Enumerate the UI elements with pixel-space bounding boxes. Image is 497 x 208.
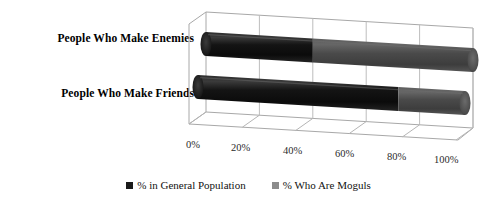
chart-container: People Who Make Enemies People Who Make … bbox=[0, 0, 497, 208]
bar-friends bbox=[193, 75, 471, 115]
category-label-friends: People Who Make Friends bbox=[18, 88, 194, 100]
legend-swatch-icon-dark bbox=[126, 182, 133, 189]
xtick-label-0: 0% bbox=[186, 140, 200, 151]
legend-swatch-icon-gray bbox=[272, 182, 279, 189]
floor-tick-lines bbox=[189, 112, 473, 140]
legend-entry-general-population[interactable]: % in General Population bbox=[126, 180, 245, 191]
chart-frame bbox=[189, 12, 473, 140]
legend-label-moguls: % Who Are Moguls bbox=[283, 180, 371, 191]
legend-label-general-population: % in General Population bbox=[137, 180, 245, 191]
category-label-enemies: People Who Make Enemies bbox=[18, 33, 194, 45]
legend-entry-moguls[interactable]: % Who Are Moguls bbox=[272, 180, 371, 191]
xtick-label-20: 20% bbox=[231, 143, 250, 154]
xtick-label-60: 60% bbox=[335, 149, 354, 160]
xtick-label-80: 80% bbox=[387, 152, 406, 163]
plot-area bbox=[182, 6, 487, 142]
bar-enemies bbox=[201, 32, 479, 72]
xtick-label-40: 40% bbox=[283, 146, 302, 157]
xtick-label-100: 100% bbox=[434, 155, 459, 166]
chart-legend: % in General Population % Who Are Moguls bbox=[0, 180, 497, 191]
